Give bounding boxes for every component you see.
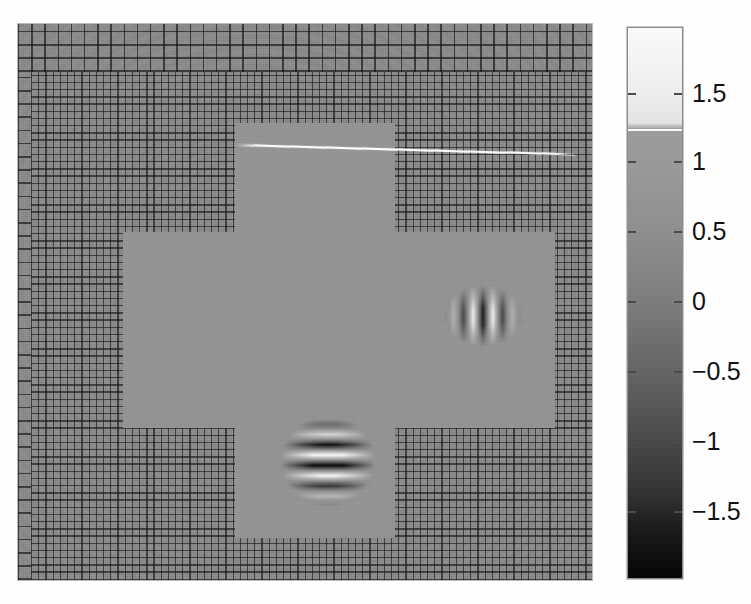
colorbar-tick-2 [628, 231, 636, 233]
colorbar-tick-right-2 [674, 231, 682, 233]
colorbar-label-5: −1 [692, 429, 720, 454]
colorbar-gradient [628, 28, 682, 578]
colorbar-label-6: −1.5 [692, 499, 741, 524]
colorbar-label-2: 0.5 [692, 219, 726, 244]
colorbar-tick-3 [628, 301, 636, 303]
wave-packet-right [443, 285, 523, 347]
wave-packet-bottom-stripes [282, 415, 374, 507]
colorbar-label-1: 1 [692, 149, 706, 174]
colorbar-tick-right-5 [674, 441, 682, 443]
colorbar[interactable] [628, 28, 682, 578]
colorbar-tick-right-3 [674, 301, 682, 303]
colorbar-tick-0 [628, 93, 636, 95]
colorbar-tick-6 [628, 511, 636, 513]
colorbar-tick-right-4 [674, 371, 682, 373]
colorbar-tick-4 [628, 371, 636, 373]
wave-packet-right-stripes [443, 285, 523, 347]
colorbar-discontinuity-line [628, 129, 682, 131]
main-plot-axes[interactable] [18, 24, 592, 580]
figure-canvas: 1.510.50−0.5−1−1.5 [0, 0, 751, 604]
colorbar-label-4: −0.5 [692, 359, 741, 384]
colorbar-tick-right-1 [674, 161, 682, 163]
colorbar-label-0: 1.5 [692, 81, 726, 106]
colorbar-tick-right-6 [674, 511, 682, 513]
colorbar-tick-1 [628, 161, 636, 163]
colorbar-label-3: 0 [692, 289, 706, 314]
colorbar-tick-5 [628, 441, 636, 443]
colorbar-tick-right-0 [674, 93, 682, 95]
wave-packet-bottom [282, 415, 374, 507]
